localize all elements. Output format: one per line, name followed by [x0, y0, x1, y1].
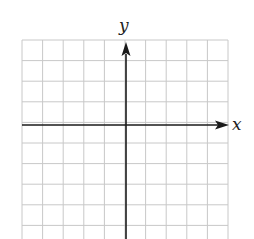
y-axis	[122, 42, 131, 239]
y-axis-label: y	[118, 15, 129, 35]
coordinate-plane: x y	[0, 0, 254, 239]
y-axis-arrow-icon	[122, 42, 131, 56]
x-axis-label: x	[232, 114, 242, 134]
grid-lines	[22, 40, 228, 239]
